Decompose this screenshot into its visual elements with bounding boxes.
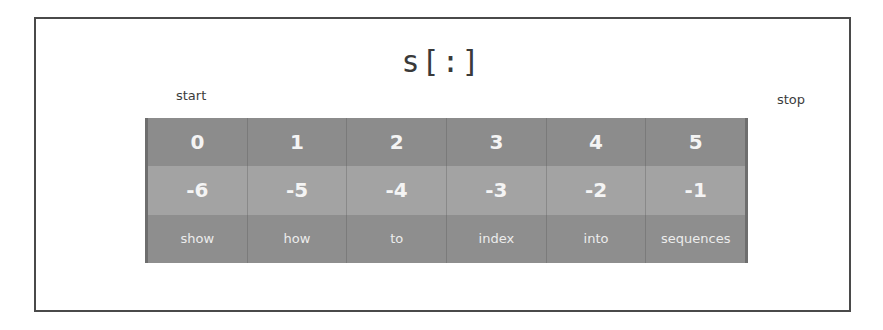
negative-index-cell: -3: [447, 166, 547, 214]
start-label: start: [176, 88, 206, 103]
sequence-index-table: 0 1 2 3 4 5 -6 -5 -4 -3 -2 -1 show how t…: [145, 118, 748, 263]
positive-index-cell: 0: [148, 118, 248, 166]
negative-index-row: -6 -5 -4 -3 -2 -1: [148, 166, 745, 214]
word-cell: into: [547, 215, 647, 263]
stop-label: stop: [777, 92, 805, 107]
negative-index-cell: -2: [547, 166, 647, 214]
positive-index-cell: 1: [248, 118, 348, 166]
negative-index-cell: -4: [347, 166, 447, 214]
word-cell: to: [347, 215, 447, 263]
positive-index-cell: 3: [447, 118, 547, 166]
word-cell: index: [447, 215, 547, 263]
negative-index-cell: -6: [148, 166, 248, 214]
positive-index-cell: 5: [646, 118, 745, 166]
positive-index-cell: 4: [547, 118, 647, 166]
positive-index-row: 0 1 2 3 4 5: [148, 118, 745, 166]
word-cell: show: [148, 215, 248, 263]
negative-index-cell: -1: [646, 166, 745, 214]
word-cell: sequences: [646, 215, 745, 263]
word-row: show how to index into sequences: [148, 215, 745, 263]
positive-index-cell: 2: [347, 118, 447, 166]
negative-index-cell: -5: [248, 166, 348, 214]
slice-expression-title: s[:]: [0, 44, 883, 79]
word-cell: how: [248, 215, 348, 263]
